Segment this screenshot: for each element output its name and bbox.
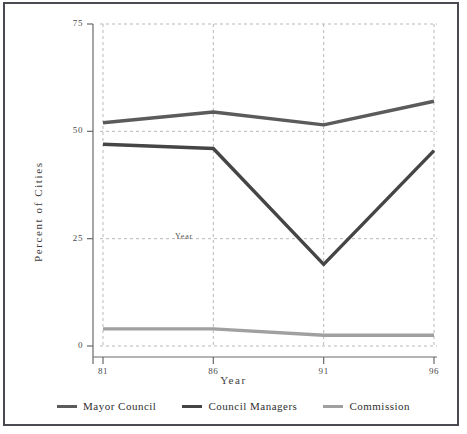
axis-spines bbox=[93, 24, 437, 357]
series-line-mayor-council bbox=[103, 101, 434, 125]
chart-figure: 75 50 25 0 81 86 91 96 Percent of Cities… bbox=[0, 0, 467, 434]
legend-label: Mayor Council bbox=[83, 400, 156, 412]
y-tick-label-50: 50 bbox=[49, 125, 83, 135]
legend-label: Council Managers bbox=[208, 400, 297, 412]
legend-item-council-managers[interactable]: Council Managers bbox=[182, 400, 297, 412]
line-chart-svg bbox=[0, 0, 467, 434]
legend-item-mayor-council[interactable]: Mayor Council bbox=[57, 400, 156, 412]
y-tick-label-25: 25 bbox=[49, 233, 83, 243]
series-lines bbox=[103, 101, 434, 335]
legend-item-commission[interactable]: Commission bbox=[323, 400, 410, 412]
y-tick-label-75: 75 bbox=[49, 18, 83, 28]
axis-ticks bbox=[87, 24, 434, 364]
x-axis-title: Year bbox=[0, 374, 467, 386]
gridlines bbox=[100, 24, 437, 346]
legend-label: Commission bbox=[349, 400, 410, 412]
y-axis-title: Percent of Cities bbox=[32, 161, 44, 262]
series-line-commission bbox=[103, 329, 434, 335]
legend-swatch-icon bbox=[57, 405, 77, 408]
legend-swatch-icon bbox=[182, 405, 202, 408]
y-tick-label-0: 0 bbox=[49, 340, 83, 350]
plot-annotation-year: Year bbox=[175, 232, 193, 241]
plot-area bbox=[0, 0, 467, 434]
series-line-council-managers bbox=[103, 144, 434, 264]
chart-legend: Mayor CouncilCouncil ManagersCommission bbox=[0, 400, 467, 412]
legend-swatch-icon bbox=[323, 405, 343, 408]
